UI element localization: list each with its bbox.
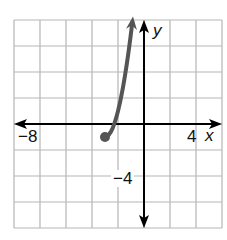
y-axis-label: y	[153, 22, 162, 39]
start-point-dot	[100, 132, 110, 142]
x-tick-label-neg8: −8	[18, 128, 37, 145]
x-tick-label-4: 4	[187, 128, 196, 145]
coordinate-plane	[0, 0, 227, 240]
x-axis-label: x	[205, 127, 214, 144]
function-curve	[105, 22, 132, 137]
y-tick-label-neg4: −4	[111, 170, 134, 187]
